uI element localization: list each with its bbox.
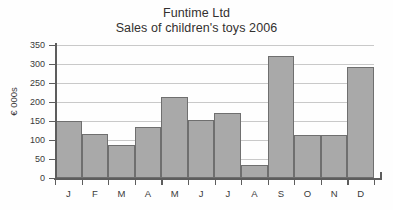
bar-O-9: [294, 135, 321, 178]
x-tick-label-8: S: [268, 188, 295, 199]
y-tick-300: [49, 64, 55, 65]
bar-J-6: [214, 113, 241, 178]
bar-M-2: [108, 145, 135, 178]
y-axis-line: [55, 43, 57, 180]
y-tick-label-0: 0: [0, 173, 45, 183]
y-tick-label-350: 350: [0, 40, 45, 50]
bar-A-3: [135, 127, 162, 178]
bar-D-11: [347, 67, 374, 178]
x-tick-label-1: F: [82, 188, 109, 199]
x-axis-endcap: [380, 172, 382, 180]
x-tick-5: [188, 178, 189, 185]
x-tick-label-5: J: [188, 188, 215, 199]
y-tick-250: [49, 83, 55, 84]
plot-area: [55, 45, 374, 178]
y-tick-label-50: 50: [0, 154, 45, 164]
bar-S-8: [268, 56, 295, 178]
x-tick-label-9: O: [294, 188, 321, 199]
bar-F-1: [82, 134, 109, 178]
x-tick-4: [161, 178, 162, 185]
x-tick-3: [135, 178, 136, 185]
y-tick-label-200: 200: [0, 97, 45, 107]
chart-title-block: Funtime Ltd Sales of children's toys 200…: [0, 6, 393, 36]
x-tick-8: [268, 178, 269, 185]
x-tick-label-6: J: [215, 188, 242, 199]
x-tick-11: [347, 178, 348, 185]
y-tick-label-150: 150: [0, 116, 45, 126]
x-axis-line: [54, 178, 382, 180]
x-tick-0: [55, 178, 56, 185]
x-tick-12: [374, 178, 375, 185]
x-tick-10: [321, 178, 322, 185]
bar-series: [55, 45, 374, 178]
x-tick-7: [241, 178, 242, 185]
y-tick-150: [49, 121, 55, 122]
y-tick-350: [49, 45, 55, 46]
y-tick-200: [49, 102, 55, 103]
x-tick-9: [294, 178, 295, 185]
x-tick-2: [108, 178, 109, 185]
y-tick-label-100: 100: [0, 135, 45, 145]
bar-N-10: [321, 135, 348, 178]
bar-A-7: [241, 165, 268, 178]
x-tick-label-4: M: [161, 188, 188, 199]
x-tick-1: [82, 178, 83, 185]
x-tick-label-10: N: [321, 188, 348, 199]
y-tick-50: [49, 159, 55, 160]
chart-subtitle: Sales of children's toys 2006: [0, 21, 393, 36]
x-tick-label-0: J: [55, 188, 82, 199]
x-tick-6: [215, 178, 216, 185]
chart-screenshot: Funtime Ltd Sales of children's toys 200…: [0, 0, 393, 210]
y-tick-label-250: 250: [0, 78, 45, 88]
x-tick-label-3: A: [135, 188, 162, 199]
y-tick-100: [49, 140, 55, 141]
bar-M-4: [161, 97, 188, 178]
x-tick-label-7: A: [241, 188, 268, 199]
x-tick-label-11: D: [347, 188, 374, 199]
bar-J-0: [55, 121, 82, 178]
x-tick-label-2: M: [108, 188, 135, 199]
chart-title: Funtime Ltd: [0, 6, 393, 21]
y-tick-label-300: 300: [0, 59, 45, 69]
bar-J-5: [188, 120, 215, 178]
